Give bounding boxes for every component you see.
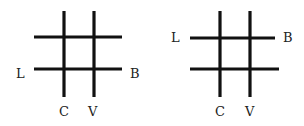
right-grid-label-bottom-right: V [244,104,255,119]
left-grid: L B C V [16,11,140,119]
left-grid-label-left: L [16,66,25,81]
right-grid-label-left: L [171,30,180,45]
right-grid-label-bottom-left: C [215,104,225,119]
diagram-canvas: L B C V L B C V [0,0,304,126]
left-grid-label-bottom-left: C [59,104,69,119]
left-grid-label-bottom-right: V [87,104,98,119]
left-grid-label-right: B [130,66,140,81]
right-grid: L B C V [171,11,293,119]
right-grid-label-right: B [283,30,293,45]
